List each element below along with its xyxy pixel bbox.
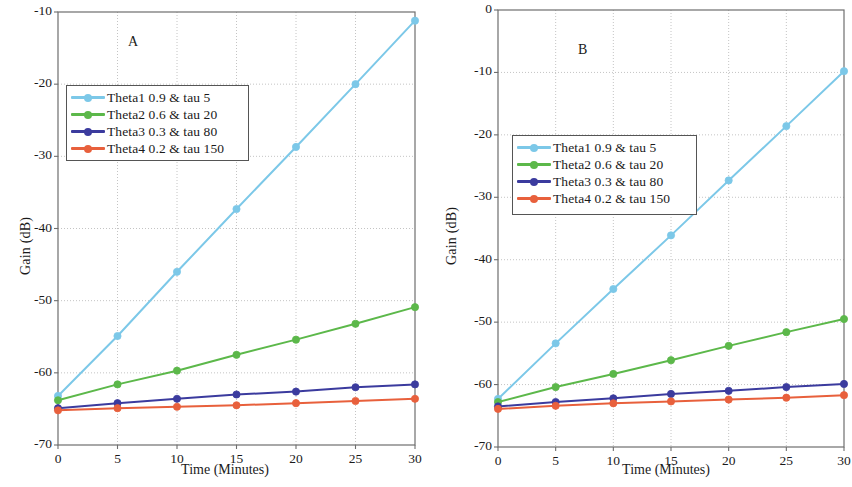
y-tick-label: -50: [442, 313, 492, 329]
x-tick-label: 30: [824, 453, 852, 469]
y-tick-label: -50: [2, 292, 52, 308]
legend-swatch-icon: [517, 159, 551, 171]
y-tick-label: -20: [442, 126, 492, 142]
x-tick-label: 20: [276, 451, 316, 467]
panel-label-b: B: [578, 42, 588, 58]
x-tick-label: 25: [766, 453, 806, 469]
legend-swatch-icon: [71, 109, 105, 121]
legend-item-label: Theta3 0.3 & tau 80: [107, 124, 217, 140]
x-tick-label: 5: [536, 453, 576, 469]
x-tick-label: 15: [217, 451, 257, 467]
legend-swatch-icon: [517, 142, 551, 154]
x-tick-label: 20: [709, 453, 749, 469]
x-tick-label: 0: [478, 453, 518, 469]
legend-item[interactable]: Theta2 0.6 & tau 20: [517, 156, 691, 173]
y-tick-label: 0: [442, 1, 492, 17]
legend-swatch-icon: [71, 92, 105, 104]
legend-item-label: Theta1 0.9 & tau 5: [107, 90, 210, 106]
legend-item[interactable]: Theta3 0.3 & tau 80: [71, 123, 243, 140]
legend-b: Theta1 0.9 & tau 5Theta2 0.6 & tau 20The…: [512, 135, 697, 215]
x-tick-label: 5: [98, 451, 138, 467]
legend-item[interactable]: Theta1 0.9 & tau 5: [71, 89, 243, 106]
figure-container: A Gain (dB) Time (Minutes) -70-60-50-40-…: [0, 0, 852, 487]
chart-panel-a: A Gain (dB) Time (Minutes) -70-60-50-40-…: [0, 0, 426, 487]
x-tick-label: 0: [38, 451, 78, 467]
y-tick-label: -70: [2, 436, 52, 452]
y-tick-label: -30: [442, 188, 492, 204]
legend-swatch-icon: [71, 143, 105, 155]
legend-item-label: Theta4 0.2 & tau 150: [107, 141, 224, 157]
y-tick-label: -10: [2, 3, 52, 19]
legend-item[interactable]: Theta2 0.6 & tau 20: [71, 106, 243, 123]
legend-item-label: Theta4 0.2 & tau 150: [553, 191, 670, 207]
legend-item[interactable]: Theta1 0.9 & tau 5: [517, 139, 691, 156]
legend-a: Theta1 0.9 & tau 5Theta2 0.6 & tau 20The…: [66, 85, 249, 161]
plot-area-a: [0, 0, 426, 487]
legend-swatch-icon: [71, 126, 105, 138]
legend-item[interactable]: Theta3 0.3 & tau 80: [517, 173, 691, 190]
x-tick-label: 10: [593, 453, 633, 469]
legend-swatch-icon: [517, 176, 551, 188]
legend-swatch-icon: [517, 193, 551, 205]
y-tick-label: -30: [2, 147, 52, 163]
y-tick-label: -40: [2, 220, 52, 236]
legend-item-label: Theta3 0.3 & tau 80: [553, 174, 663, 190]
legend-item[interactable]: Theta4 0.2 & tau 150: [71, 140, 243, 157]
y-tick-label: -20: [2, 75, 52, 91]
x-tick-label: 15: [651, 453, 691, 469]
legend-item-label: Theta1 0.9 & tau 5: [553, 140, 656, 156]
y-tick-label: -70: [442, 438, 492, 454]
y-tick-label: -10: [442, 63, 492, 79]
y-tick-label: -60: [442, 376, 492, 392]
panel-label-a: A: [128, 34, 139, 50]
legend-item-label: Theta2 0.6 & tau 20: [553, 157, 663, 173]
chart-panel-b: B Gain (dB) Time (Minutes) -70-60-50-40-…: [426, 0, 852, 487]
legend-item[interactable]: Theta4 0.2 & tau 150: [517, 190, 691, 207]
y-tick-label: -40: [442, 251, 492, 267]
x-tick-label: 25: [336, 451, 376, 467]
legend-item-label: Theta2 0.6 & tau 20: [107, 107, 217, 123]
x-tick-label: 10: [157, 451, 197, 467]
y-tick-label: -60: [2, 364, 52, 380]
